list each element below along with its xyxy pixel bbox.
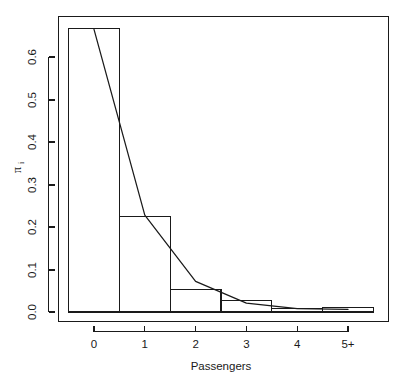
histogram-bar-0	[69, 28, 120, 312]
x-tick-label-2: 2	[192, 338, 198, 350]
x-tick-label-5: 5+	[341, 338, 354, 350]
chart-canvas: 0.6 0.5 0.4 0.3 0.2 0.1 0.0 π i 0 1 2	[0, 0, 402, 383]
x-tick-label-3: 3	[243, 338, 249, 350]
y-axis-title: π i	[10, 161, 26, 173]
histogram-bar-3	[221, 300, 272, 312]
fitted-curve	[94, 29, 348, 309]
x-tick-label-1: 1	[142, 338, 148, 350]
y-axis-title-symbol: π	[10, 167, 24, 173]
y-tick-label-0.4: 0.4	[26, 133, 38, 150]
y-tick-label-0.2: 0.2	[26, 219, 38, 235]
y-axis-title-subscript: i	[17, 161, 26, 164]
x-axis-title: Passengers	[191, 360, 252, 372]
x-tick-label-0: 0	[91, 338, 97, 350]
x-axis: 0 1 2 3 4 5+ Passengers	[91, 326, 355, 373]
y-axis: 0.6 0.5 0.4 0.3 0.2 0.1 0.0 π i	[10, 49, 55, 320]
y-tick-label-0.0: 0.0	[26, 304, 38, 320]
histogram-bar-2	[170, 290, 221, 312]
histogram-bar-1	[119, 216, 170, 312]
x-tick-label-4: 4	[294, 338, 301, 350]
chart-figure: 0.6 0.5 0.4 0.3 0.2 0.1 0.0 π i 0 1 2	[0, 0, 402, 383]
histogram-bars	[69, 28, 374, 312]
y-tick-label-0.6: 0.6	[26, 49, 38, 65]
y-tick-label-0.1: 0.1	[26, 262, 38, 278]
plot-frame	[59, 17, 389, 322]
y-tick-label-0.3: 0.3	[26, 177, 38, 193]
y-tick-label-0.5: 0.5	[26, 92, 38, 108]
